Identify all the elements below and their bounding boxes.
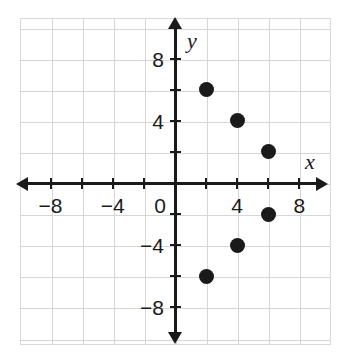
- x-tick-label: −4: [91, 195, 135, 216]
- y-tick-label: 8: [120, 49, 164, 70]
- coordinate-plane-figure: −8−404884−4−8 x y: [0, 0, 347, 360]
- x-axis-right-arrow-icon: [316, 177, 328, 191]
- x-axis-tick: [267, 178, 269, 189]
- x-tick-label: 8: [277, 195, 321, 216]
- data-point: [261, 207, 276, 222]
- x-axis-tick: [50, 178, 52, 189]
- y-axis-label: y: [187, 30, 197, 52]
- x-tick-label: 4: [215, 195, 259, 216]
- y-axis-tick: [170, 151, 181, 153]
- x-axis-left-arrow-icon: [16, 177, 28, 191]
- y-tick-label: −8: [120, 297, 164, 318]
- data-point: [199, 269, 214, 284]
- data-point: [199, 82, 214, 97]
- x-axis-tick: [236, 178, 238, 189]
- x-axis-line: [26, 182, 318, 185]
- x-axis-tick: [143, 178, 145, 189]
- y-axis-tick: [170, 244, 181, 246]
- y-axis-line: [174, 28, 177, 333]
- y-axis-down-arrow-icon: [168, 332, 182, 344]
- x-axis-tick: [205, 178, 207, 189]
- x-axis-tick: [112, 178, 114, 189]
- x-tick-label: 0: [138, 195, 182, 216]
- x-tick-label: −8: [29, 195, 73, 216]
- y-axis-tick: [170, 275, 181, 277]
- x-axis-label: x: [305, 151, 315, 173]
- x-axis-tick: [81, 178, 83, 189]
- data-point: [230, 238, 245, 253]
- y-tick-label: −4: [120, 235, 164, 256]
- y-axis-tick: [170, 58, 181, 60]
- y-axis-up-arrow-icon: [168, 17, 182, 29]
- data-point: [230, 113, 245, 128]
- y-axis-tick: [170, 89, 181, 91]
- y-tick-label: 4: [120, 111, 164, 132]
- x-axis-tick: [298, 178, 300, 189]
- y-axis-tick: [170, 120, 181, 122]
- y-axis-tick: [170, 306, 181, 308]
